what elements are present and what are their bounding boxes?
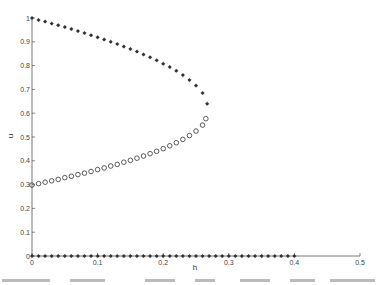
series-circle: [30, 116, 208, 187]
star-marker: [115, 254, 119, 258]
cropped-caption: [2, 279, 375, 282]
y-tick-label: 0.8: [20, 62, 30, 69]
star-marker: [148, 55, 152, 59]
circle-marker: [49, 178, 54, 183]
caption-fragment: [2, 279, 50, 282]
x-tick-label: 0.2: [158, 259, 168, 266]
circle-marker: [194, 129, 199, 134]
star-marker: [201, 91, 205, 95]
x-axis-label: h: [193, 263, 197, 272]
star-marker: [69, 27, 73, 31]
circle-marker: [43, 180, 48, 185]
star-marker: [63, 254, 67, 258]
caption-fragment: [330, 279, 375, 282]
circle-marker: [174, 140, 179, 145]
star-marker: [246, 254, 250, 258]
star-marker: [174, 254, 178, 258]
star-marker: [102, 37, 106, 41]
star-marker: [96, 35, 100, 39]
chart-plot: 00.10.20.30.40.500.10.20.30.40.50.60.70.…: [0, 0, 383, 285]
star-marker: [135, 254, 139, 258]
caption-fragment: [70, 279, 105, 282]
y-tick-label: 0.5: [20, 134, 30, 141]
star-marker: [43, 254, 47, 258]
circle-marker: [82, 171, 87, 176]
star-marker: [240, 254, 244, 258]
circle-marker: [181, 137, 186, 142]
y-tick-label: 0.3: [20, 181, 30, 188]
caption-fragment: [240, 279, 270, 282]
circle-marker: [200, 123, 205, 128]
star-marker: [187, 254, 191, 258]
star-marker: [37, 254, 41, 258]
star-marker: [253, 254, 257, 258]
star-marker: [214, 254, 218, 258]
star-marker: [37, 18, 41, 22]
circle-marker: [141, 154, 146, 159]
circle-marker: [102, 166, 107, 171]
y-tick-label: 0.6: [20, 110, 30, 117]
star-marker: [122, 254, 126, 258]
star-marker: [201, 254, 205, 258]
star-marker: [181, 254, 185, 258]
y-tick-label: 0.7: [20, 86, 30, 93]
star-marker: [82, 254, 86, 258]
star-marker: [109, 254, 113, 258]
star-marker: [82, 31, 86, 35]
x-tick-label: 0.1: [93, 259, 103, 266]
circle-marker: [187, 133, 192, 138]
star-marker: [135, 50, 139, 54]
star-marker: [148, 254, 152, 258]
star-marker: [260, 254, 264, 258]
circle-marker: [95, 167, 100, 172]
star-marker: [266, 254, 270, 258]
circle-marker: [135, 156, 140, 161]
star-marker: [233, 254, 237, 258]
star-marker: [30, 254, 34, 258]
y-tick-label: 0.9: [20, 38, 30, 45]
star-marker: [76, 29, 80, 33]
star-marker: [205, 102, 209, 106]
x-tick-label: 0: [30, 259, 34, 266]
star-marker: [220, 254, 224, 258]
x-tick-label: 0.4: [290, 259, 300, 266]
star-marker: [142, 254, 146, 258]
star-marker: [69, 254, 73, 258]
x-tick-label: 0.5: [355, 259, 365, 266]
y-tick-label: 0.4: [20, 157, 30, 164]
y-tick-label: 0.2: [20, 205, 30, 212]
star-marker: [155, 58, 159, 62]
circle-marker: [89, 169, 94, 174]
star-marker: [207, 254, 211, 258]
star-marker: [142, 52, 146, 56]
star-marker: [102, 254, 106, 258]
circle-marker: [167, 144, 172, 149]
star-marker: [128, 254, 132, 258]
star-marker: [43, 20, 47, 24]
star-marker: [194, 84, 198, 88]
circle-marker: [56, 177, 61, 182]
star-marker: [109, 40, 113, 44]
star-marker: [63, 25, 67, 29]
star-marker: [89, 33, 93, 37]
star-marker: [128, 47, 132, 51]
star-marker: [50, 21, 54, 25]
star-marker: [76, 254, 80, 258]
data-series: [30, 16, 297, 258]
star-marker: [161, 254, 165, 258]
circle-marker: [76, 172, 81, 177]
circle-marker: [148, 151, 153, 156]
star-marker: [227, 254, 231, 258]
circle-marker: [115, 162, 120, 167]
axes: 00.10.20.30.40.500.10.20.30.40.50.60.70.…: [20, 15, 365, 267]
caption-fragment: [195, 279, 215, 282]
x-tick-label: 0.3: [224, 259, 234, 266]
circle-marker: [122, 160, 127, 165]
star-marker: [181, 73, 185, 77]
star-marker: [286, 254, 290, 258]
star-marker: [273, 254, 277, 258]
star-marker: [30, 16, 34, 20]
star-marker: [89, 254, 93, 258]
star-marker: [96, 254, 100, 258]
y-tick-label: 0: [26, 253, 30, 260]
